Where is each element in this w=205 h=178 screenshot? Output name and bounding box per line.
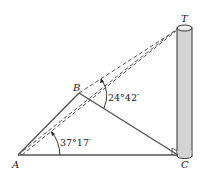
point-label-a: A <box>11 159 19 170</box>
sight-line-a-t <box>18 28 178 155</box>
angle-arc-b <box>100 78 107 108</box>
sight-line-a-t-2 <box>22 31 176 155</box>
point-label-t: T <box>181 13 189 24</box>
tower-cylinder <box>177 25 192 159</box>
triangle-abc <box>18 93 178 155</box>
sight-lines <box>18 28 178 155</box>
angle-label-b: 24°42′ <box>108 92 139 103</box>
angle-label-a: 37°17′ <box>60 137 91 148</box>
point-label-c: C <box>181 159 189 170</box>
sight-line-b-t <box>79 29 178 93</box>
angle-arc-a <box>51 131 60 155</box>
point-label-b: B <box>72 82 80 93</box>
triangulation-diagram: A B C T 37°17′ 24°42′ <box>0 0 205 178</box>
